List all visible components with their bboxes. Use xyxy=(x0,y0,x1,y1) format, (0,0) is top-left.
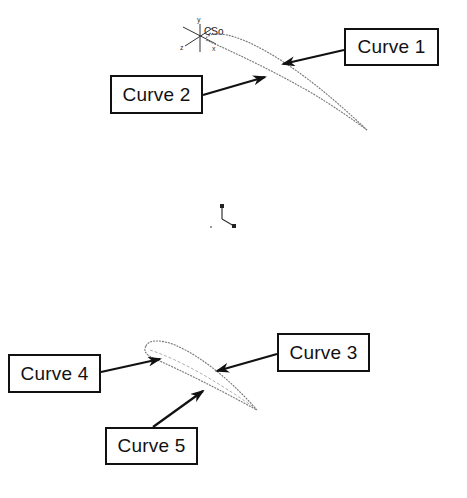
curve-1-label: Curve 1 xyxy=(344,28,439,66)
coordinate-system-label: CSo xyxy=(204,26,224,37)
curve-3-upper xyxy=(146,341,257,410)
arrow-curve-2 xyxy=(203,77,265,95)
curve-4-leading-edge xyxy=(145,346,155,359)
curve-5-label: Curve 5 xyxy=(105,427,198,465)
curve-4-label: Curve 4 xyxy=(8,354,101,393)
curve-5-lower xyxy=(155,359,257,410)
arrow-curve-5 xyxy=(153,391,203,427)
origin-triad-icon xyxy=(210,204,236,228)
inner-mean-line xyxy=(150,350,255,408)
arrow-curve-4 xyxy=(101,359,160,372)
bottom-airfoil xyxy=(145,341,257,410)
arrow-curve-1 xyxy=(283,50,344,64)
curve-3-label: Curve 3 xyxy=(277,333,370,372)
curve-2-lower xyxy=(206,40,367,130)
y-axis-label: y xyxy=(197,16,201,24)
curve-2-label: Curve 2 xyxy=(110,75,203,114)
curve-1-upper xyxy=(206,34,367,130)
diagram-canvas: y z x CSo xyxy=(0,0,467,498)
x-axis-label: x xyxy=(212,45,216,52)
arrow-curve-3 xyxy=(217,354,277,371)
top-airfoil xyxy=(206,34,367,130)
z-axis-label: z xyxy=(180,44,184,51)
